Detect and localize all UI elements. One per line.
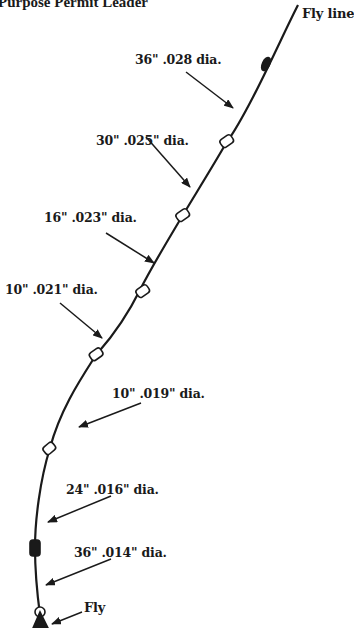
section-label-5: 10" .019" dia. bbox=[112, 386, 205, 401]
section-label-7: 36" .014" dia. bbox=[74, 545, 167, 560]
leader-line bbox=[35, 5, 298, 615]
leader-line-drawing bbox=[0, 0, 354, 628]
section-label-6: 24" .016" dia. bbox=[66, 482, 159, 497]
section-label-2: 30" .025" dia. bbox=[96, 133, 189, 148]
section-label-4: 10" .021" dia. bbox=[5, 282, 98, 297]
fly-label: Fly bbox=[84, 600, 105, 615]
diagram-title: Purpose Permit Leader bbox=[0, 0, 148, 11]
arrow-icon bbox=[46, 72, 233, 624]
leader-diagram: Purpose Permit Leader Fly line 36" .028 … bbox=[0, 0, 354, 628]
section-label-3: 16" .023" dia. bbox=[44, 210, 137, 225]
section-label-1: 36" .028 dia. bbox=[135, 52, 221, 67]
fly-line-label: Fly line bbox=[302, 6, 354, 21]
